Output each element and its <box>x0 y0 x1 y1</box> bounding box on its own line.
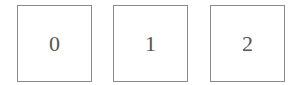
box-0: 0 <box>17 5 92 82</box>
box-label: 1 <box>145 31 156 57</box>
box-label: 2 <box>242 31 253 57</box>
box-2: 2 <box>210 5 285 82</box>
box-label: 0 <box>49 31 60 57</box>
box-1: 1 <box>113 5 188 82</box>
